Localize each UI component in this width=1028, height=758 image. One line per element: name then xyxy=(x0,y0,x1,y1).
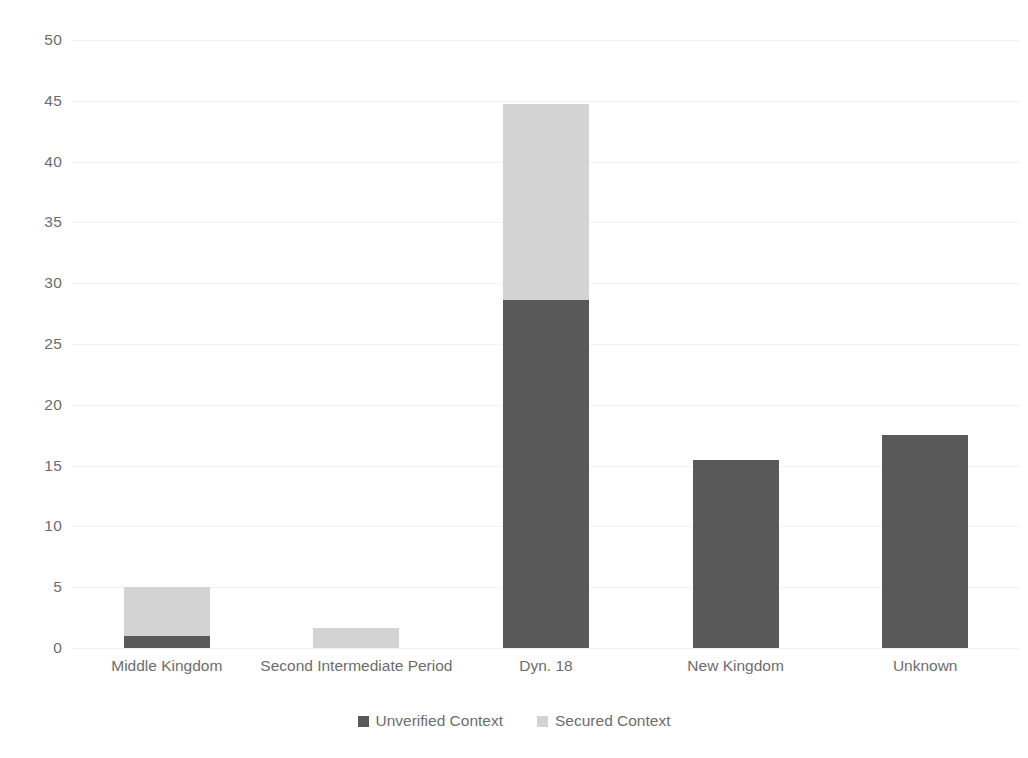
bar-group xyxy=(503,104,589,648)
bar-group xyxy=(124,587,210,648)
y-axis: 05101520253035404550 xyxy=(0,40,62,648)
bar-segment xyxy=(503,300,589,648)
legend-item[interactable]: Secured Context xyxy=(537,712,670,730)
y-axis-tick-label: 15 xyxy=(16,458,62,474)
legend-label: Unverified Context xyxy=(376,712,504,730)
gridline xyxy=(72,648,1020,649)
y-axis-tick-label: 40 xyxy=(16,154,62,170)
y-axis-tick-label: 10 xyxy=(16,518,62,534)
x-axis-tick-label: Unknown xyxy=(820,655,1028,676)
bar-segment xyxy=(693,460,779,648)
bar-segment xyxy=(882,435,968,648)
y-axis-tick-label: 30 xyxy=(16,275,62,291)
legend-label: Secured Context xyxy=(555,712,670,730)
legend-swatch-icon xyxy=(358,716,369,727)
y-axis-tick-label: 25 xyxy=(16,336,62,352)
x-axis-tick-label: Middle Kingdom xyxy=(62,655,272,676)
bar-chart: 05101520253035404550 Middle KingdomSecon… xyxy=(0,0,1028,758)
chart-legend: Unverified ContextSecured Context xyxy=(0,712,1028,730)
x-axis-tick-label: New Kingdom xyxy=(631,655,841,676)
bar-segment xyxy=(124,587,210,636)
y-axis-tick-label: 45 xyxy=(16,93,62,109)
y-axis-tick-label: 50 xyxy=(16,32,62,48)
bar-group xyxy=(313,628,399,648)
bar-segment xyxy=(313,628,399,648)
legend-swatch-icon xyxy=(537,716,548,727)
legend-item[interactable]: Unverified Context xyxy=(358,712,504,730)
gridline xyxy=(72,40,1020,41)
x-axis-category-labels: Middle KingdomSecond Intermediate Period… xyxy=(72,655,1020,707)
x-axis-tick-label: Dyn. 18 xyxy=(441,655,651,676)
plot-area xyxy=(72,40,1020,648)
bar-segment xyxy=(503,104,589,300)
y-axis-tick-label: 0 xyxy=(16,640,62,656)
gridline xyxy=(72,101,1020,102)
y-axis-tick-label: 5 xyxy=(16,579,62,595)
bar-group xyxy=(693,460,779,648)
y-axis-tick-label: 20 xyxy=(16,397,62,413)
bar-group xyxy=(882,435,968,648)
x-axis-tick-label: Second Intermediate Period xyxy=(251,655,461,676)
y-axis-tick-label: 35 xyxy=(16,214,62,230)
bar-segment xyxy=(124,636,210,648)
